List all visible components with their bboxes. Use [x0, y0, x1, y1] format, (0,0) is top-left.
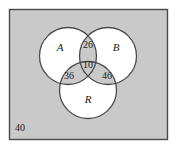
venn-diagram-figure: A B R 26 10 36 46 40	[0, 0, 176, 147]
set-label-a: A	[56, 41, 64, 53]
region-count-a-and-b: 26	[83, 39, 93, 50]
set-label-b: B	[113, 41, 120, 53]
region-count-a-and-r: 36	[64, 70, 74, 81]
region-count-b-and-r: 46	[102, 70, 112, 81]
venn-circle-interiors	[0, 0, 176, 147]
region-count-outside: 40	[15, 122, 25, 133]
region-count-a-b-r: 10	[83, 59, 93, 70]
venn-diagram-canvas: A B R 26 10 36 46 40	[0, 0, 176, 147]
set-label-r: R	[84, 93, 92, 105]
